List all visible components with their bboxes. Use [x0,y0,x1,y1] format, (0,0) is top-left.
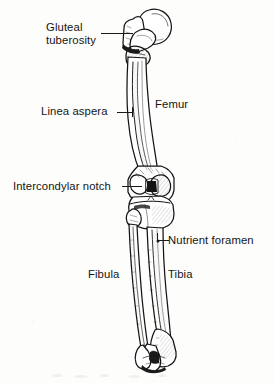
label-gluteal-tuberosity: Gluteal tuberosity [46,21,96,48]
scan-smudge [100,374,109,377]
leader-tick-linea-aspera [132,107,133,117]
label-linea-aspera: Linea aspera [41,105,108,118]
anatomy-figure: Gluteal tuberosity Linea aspera Femur In… [0,0,274,383]
label-intercondylar-notch: Intercondylar notch [13,180,111,193]
leader-tick-nutrient-foramen [157,233,158,241]
label-fibula: Fibula [88,268,119,281]
scan-smudge [128,375,140,378]
scan-smudge [158,374,166,377]
label-nutrient-foramen: Nutrient foramen [168,234,254,247]
scan-smudge [52,374,62,377]
label-tibia: Tibia [168,268,193,281]
leader-line-intercondylar-notch [122,186,142,187]
scan-smudge [74,375,88,378]
leader-line-linea-aspera [117,112,133,113]
fibula-shaft [129,224,148,348]
label-femur: Femur [155,98,188,111]
leader-line-gluteal-tuberosity [101,33,133,34]
